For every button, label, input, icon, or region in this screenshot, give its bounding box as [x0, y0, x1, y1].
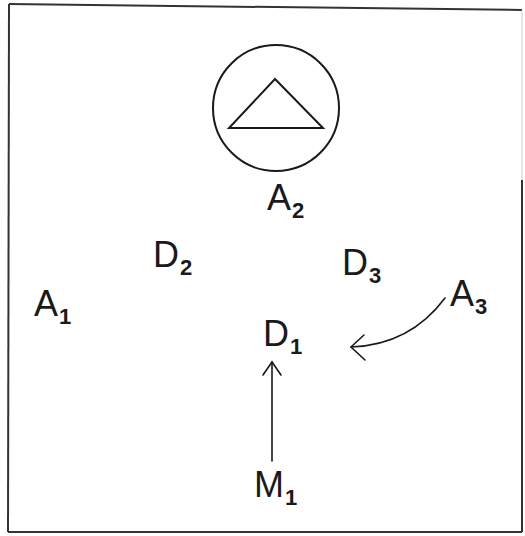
label-a3: A3	[450, 276, 487, 318]
label-d2-main: D	[153, 237, 179, 273]
arrow-A3-to-D1	[351, 298, 445, 360]
label-d3-main: D	[342, 245, 368, 281]
label-d1-sub: 1	[290, 336, 302, 358]
label-d3-sub: 3	[369, 265, 381, 287]
label-a1-main: A	[34, 286, 58, 322]
label-m1: M1	[254, 467, 297, 509]
diagram-canvas	[0, 0, 525, 536]
label-d3: D3	[342, 245, 381, 287]
label-m1-main: M	[254, 467, 284, 503]
label-a2: A2	[267, 180, 304, 222]
label-a3-sub: 3	[475, 296, 487, 318]
label-a1: A1	[34, 286, 71, 328]
label-a2-sub: 2	[292, 200, 304, 222]
label-d2: D2	[153, 237, 192, 279]
triangle-in-circle-icon	[213, 45, 339, 171]
diagram-frame	[8, 4, 522, 532]
label-m1-sub: 1	[285, 487, 297, 509]
label-a3-main: A	[450, 276, 474, 312]
label-d1: D1	[263, 316, 302, 358]
label-a2-main: A	[267, 180, 291, 216]
label-d1-main: D	[263, 316, 289, 352]
label-d2-sub: 2	[180, 257, 192, 279]
arrow-M1-to-D1	[263, 362, 281, 461]
label-a1-sub: 1	[59, 306, 71, 328]
